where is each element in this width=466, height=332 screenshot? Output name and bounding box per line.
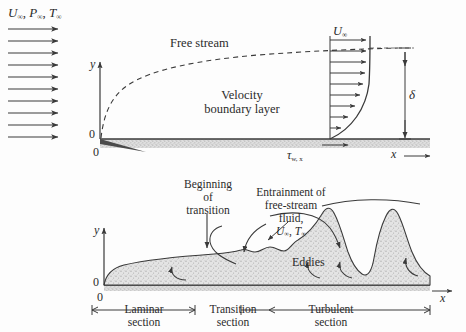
figure-vector-layer [0, 0, 466, 332]
turbulent-section-label: Turbulent section [296, 303, 366, 329]
bot-line1: Beginning [172, 178, 244, 191]
bot-line2: of [172, 191, 244, 204]
transition-line2: section [198, 316, 268, 329]
eddies-label: Eddies [292, 256, 325, 269]
vbl-line1: Velocity [196, 88, 288, 102]
transition-section-label: Transition section [198, 303, 268, 329]
bot-line3: transition [172, 204, 244, 217]
ent-line3: fluid, [248, 212, 334, 225]
vbl-line2: boundary layer [196, 102, 288, 116]
velocity-boundary-layer-label: Velocity boundary layer [196, 88, 288, 116]
transition-line1: Transition [198, 303, 268, 316]
free-stream-label: Free stream [170, 36, 229, 50]
velocity-profile [330, 36, 370, 139]
x-axis-label-top: x [391, 148, 396, 161]
flat-plate-bottom [104, 285, 430, 291]
entrainment-label: Entrainment of free-stream fluid, U∞, T∞ [248, 186, 334, 238]
freestream-u: U [8, 5, 17, 20]
freestream-t-sub: ∞ [56, 12, 61, 21]
ent-line2: free-stream [248, 199, 334, 212]
beginning-of-transition-label: Beginning of transition [172, 178, 244, 217]
x-axis-label-bottom: x [440, 292, 445, 305]
entrainment-sheet-line [322, 200, 420, 206]
profile-velocity-label: U∞ [333, 24, 347, 39]
freestream-arrows [8, 29, 58, 137]
delta-dimension [370, 48, 414, 139]
origin-label-top-lower: 0 [93, 146, 99, 159]
turbulent-line2: section [296, 316, 366, 329]
origin-label-bottom-upper: 0 [93, 276, 99, 289]
flat-plate-top [100, 139, 430, 148]
laminar-line2: section [110, 316, 178, 329]
wall-shear-label: τw, x [287, 149, 303, 163]
origin-label-top-upper: 0 [89, 128, 95, 141]
y-axis-label-top: y [90, 58, 95, 71]
turbulent-line1: Turbulent [296, 303, 366, 316]
ent-line1: Entrainment of [248, 186, 334, 199]
boundary-layer-figure: U∞, P∞, T∞ Free stream Velocity boundary… [0, 0, 466, 332]
ent-line4: U∞, T∞ [248, 225, 334, 238]
laminar-line1: Laminar [110, 303, 178, 316]
y-axis-label-bottom: y [94, 224, 99, 237]
laminar-section-label: Laminar section [110, 303, 178, 329]
delta-label: δ [409, 88, 415, 103]
freestream-conditions-label: U∞, P∞, T∞ [8, 6, 62, 21]
origin-label-bottom-lower: 0 [97, 291, 103, 304]
